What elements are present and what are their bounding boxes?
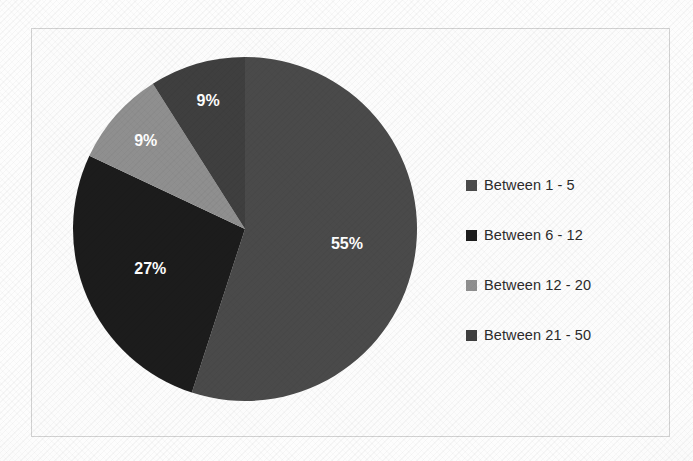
pie-chart-svg: 55% 27% 9% 9% — [72, 56, 418, 402]
legend-item-label: Between 1 - 5 — [484, 177, 575, 193]
legend-swatch-icon — [466, 180, 477, 191]
pie-chart: 55% 27% 9% 9% — [72, 56, 418, 402]
pie-label-between-6-12: 27% — [134, 260, 166, 277]
scanned-page: 55% 27% 9% 9% Between 1 - 5 Between 6 - … — [0, 0, 693, 461]
legend-swatch-icon — [466, 230, 477, 241]
legend-item-between-21-50[interactable]: Between 21 - 50 — [466, 310, 646, 360]
legend-item-label: Between 6 - 12 — [484, 227, 583, 243]
legend-item-label: Between 12 - 20 — [484, 277, 591, 293]
pie-slices — [73, 57, 417, 401]
legend-swatch-icon — [466, 280, 477, 291]
legend-item-between-6-12[interactable]: Between 6 - 12 — [466, 210, 646, 260]
legend-item-between-1-5[interactable]: Between 1 - 5 — [466, 160, 646, 210]
legend-swatch-icon — [466, 330, 477, 341]
legend-item-between-12-20[interactable]: Between 12 - 20 — [466, 260, 646, 310]
pie-label-between-1-5: 55% — [331, 235, 363, 252]
pie-label-between-12-20: 9% — [134, 132, 157, 149]
legend-item-label: Between 21 - 50 — [484, 327, 591, 343]
chart-legend: Between 1 - 5 Between 6 - 12 Between 12 … — [466, 160, 646, 360]
pie-label-between-21-50: 9% — [197, 92, 220, 109]
